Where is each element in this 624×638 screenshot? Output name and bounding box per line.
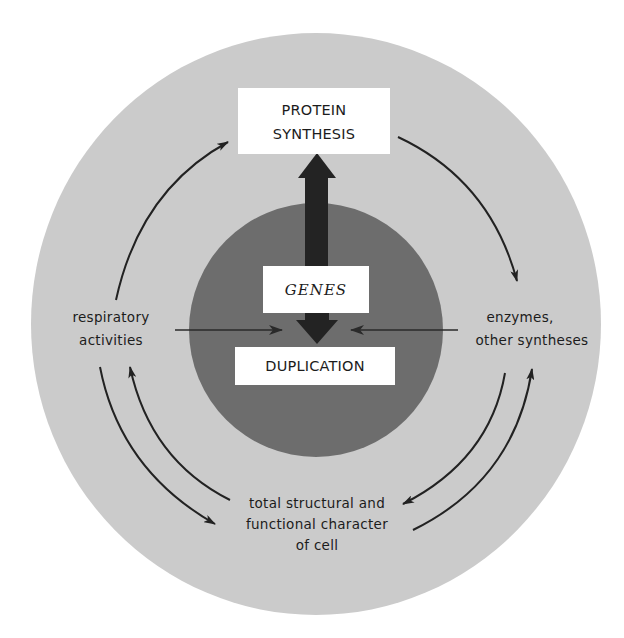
respiratory-line1: respiratory: [72, 309, 149, 325]
duplication-label: DUPLICATION: [265, 358, 364, 374]
genes-label: GENES: [285, 281, 347, 299]
enzymes-line2: other syntheses: [476, 332, 589, 348]
genes-node: GENES: [263, 266, 369, 313]
enzymes-line1: enzymes,: [486, 309, 553, 325]
protein-synthesis-line2: SYNTHESIS: [273, 126, 355, 142]
cell-cycle-diagram: PROTEIN SYNTHESIS GENES DUPLICATION resp…: [0, 0, 624, 638]
cell-character-line2: functional character: [246, 516, 388, 532]
respiratory-line2: activities: [79, 332, 143, 348]
cell-character-line1: total structural and: [249, 495, 385, 511]
protein-synthesis-node: PROTEIN SYNTHESIS: [238, 88, 390, 154]
cell-character-line3: of cell: [296, 537, 339, 553]
protein-synthesis-line1: PROTEIN: [282, 102, 347, 118]
duplication-node: DUPLICATION: [235, 347, 395, 385]
